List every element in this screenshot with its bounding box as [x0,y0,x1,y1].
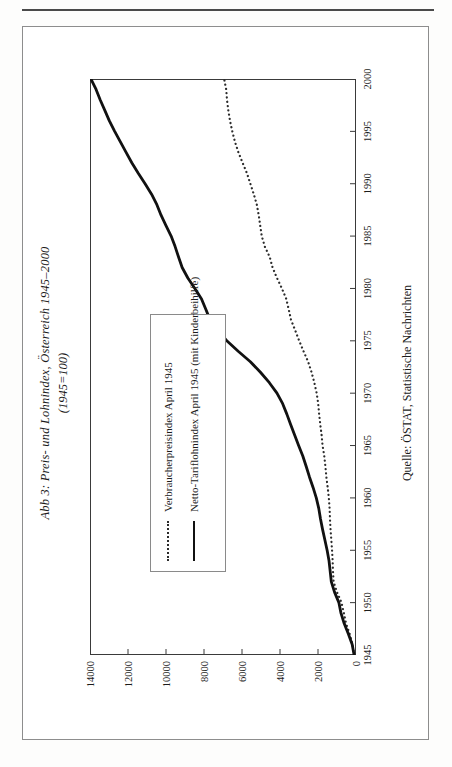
figure-subtitle: (1945=100) [56,26,71,740]
legend-item: Netto-Tariflohnindex April 1945 (mit Kin… [188,325,200,561]
x-tick-label: 1985 [362,226,373,247]
x-tick-label: 1945 [362,645,373,666]
x-tick-label: 1970 [362,383,373,404]
x-tick-label: 1950 [362,592,373,613]
x-tick-label: 1960 [362,487,373,508]
y-tick-label: 6000 [237,661,248,699]
y-tick-label: 0 [351,661,362,699]
y-tick-label: 4000 [275,661,286,699]
x-tick-label: 1980 [362,278,373,299]
y-tick-label: 10000 [161,661,172,699]
x-tick-label: 2000 [362,69,373,90]
y-tick-label: 2000 [313,661,324,699]
x-tick-label: 1990 [362,173,373,194]
scanned-page: Abb 3: Preis- und Lohnindex, Österreich … [0,0,452,767]
figure-title: Abb 3: Preis- und Lohnindex, Österreich … [38,26,53,740]
legend-label-cpi: Verbraucherpreisindex April 1945 [162,362,174,512]
legend-swatch-dotted-icon [167,521,169,561]
y-tick-label: 14000 [85,661,96,699]
x-tick-label: 1995 [362,121,373,142]
series-line [224,79,354,655]
legend-label-wage: Netto-Tariflohnindex April 1945 (mit Kin… [188,277,200,512]
legend-swatch-solid-icon [193,521,195,561]
legend-item: Verbraucherpreisindex April 1945 [162,325,174,561]
chart-legend: Verbraucherpreisindex April 1945 Netto-T… [150,314,226,572]
x-tick-label: 1955 [362,540,373,561]
page-top-rule [22,9,434,11]
y-tick-label: 8000 [199,661,210,699]
figure-source: Quelle: ÖSTAT, Statistische Nachrichten [400,26,415,740]
y-tick-label: 12000 [123,661,134,699]
x-tick-label: 1965 [362,435,373,456]
rotated-figure: Abb 3: Preis- und Lohnindex, Österreich … [22,26,429,740]
x-tick-label: 1975 [362,330,373,351]
